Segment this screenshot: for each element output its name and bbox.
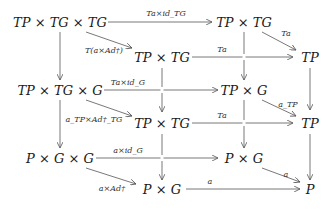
node-tp-low: TP	[301, 117, 318, 130]
label-ta-mid: Ta	[217, 46, 226, 54]
node-tp-tg-mid: TP × TG	[134, 51, 190, 64]
label-a-tp: a_TP	[278, 101, 298, 109]
label-a-tp-ad-tg: a_TP×Ad†_TG	[66, 116, 123, 124]
node-p-g-bottom: P × G	[143, 183, 181, 196]
label-t-a-ad: T(a×Ad†)	[85, 47, 123, 55]
node-p: P	[306, 183, 315, 196]
node-tp-tg-top: TP × TG	[216, 16, 272, 29]
label-a-bottom: a	[208, 178, 213, 186]
label-ta-low: Ta	[217, 112, 226, 120]
label-a-ad: a×Ad†	[99, 185, 125, 193]
node-tp-top: TP	[301, 51, 318, 64]
label-ta-top-diag: Ta	[281, 30, 290, 38]
label-a-id-g: a×id_G	[113, 147, 143, 155]
node-tp-tg-low: TP × TG	[134, 117, 190, 130]
label-a-diag: a	[284, 171, 289, 179]
node-p-g-right: P × G	[225, 152, 263, 165]
node-tp-g: TP × G	[221, 84, 268, 97]
node-tp-tg-g: TP × TG × G	[17, 84, 102, 97]
label-ta-id-g: Ta×id_G	[111, 79, 145, 87]
node-tp-tg-tg: TP × TG × TG	[13, 16, 107, 29]
node-p-g-g: P × G × G	[26, 152, 94, 165]
commutative-diagram: TP × TG × TG TP × TG TP × TG TP TP × TG …	[0, 0, 335, 211]
label-ta-id-tg: Ta×id_TG	[146, 10, 186, 18]
